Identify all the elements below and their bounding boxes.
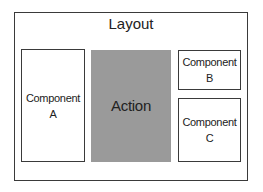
- action-label: Action: [91, 50, 171, 162]
- component-b-label: Component B: [179, 51, 240, 89]
- component-b-box: Component B: [178, 50, 241, 90]
- component-a-label: Component A: [22, 50, 84, 161]
- component-c-line1: Component: [182, 114, 236, 130]
- component-a-line2: A: [49, 106, 56, 122]
- component-b-line1: Component: [182, 54, 236, 70]
- component-a-line1: Component: [26, 90, 80, 106]
- component-c-box: Component C: [178, 98, 241, 162]
- component-a-box: Component A: [21, 49, 85, 162]
- layout-title: Layout: [14, 15, 248, 32]
- component-c-label: Component C: [179, 99, 240, 161]
- action-box: Action: [91, 50, 171, 162]
- component-c-line2: C: [206, 130, 214, 146]
- component-b-line2: B: [206, 70, 213, 86]
